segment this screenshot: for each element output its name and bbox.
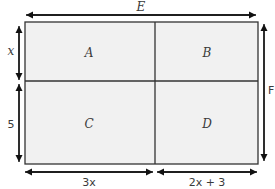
dimension-left-bottom: 5 — [8, 84, 20, 162]
region-a-label: A — [84, 46, 94, 60]
dimension-left-top: x — [8, 26, 19, 80]
dimension-bottom-right: 2x + 3 — [157, 172, 257, 189]
rectangle — [25, 22, 258, 164]
region-c-label: C — [84, 117, 93, 131]
dimension-right: F — [264, 24, 274, 161]
region-b-label: B — [202, 46, 212, 60]
region-d-label: D — [201, 117, 212, 131]
dimension-f-label: F — [268, 84, 274, 97]
dimension-x-label: x — [8, 44, 15, 58]
dimension-e-label: E — [136, 0, 146, 14]
dimension-5-label: 5 — [8, 118, 15, 131]
area-diagram: A B C D E F x 5 3x 2x + 3 — [0, 0, 275, 189]
dimension-bottom-left: 3x — [25, 172, 153, 189]
dimension-top: E — [26, 0, 256, 15]
dimension-3x-label: 3x — [82, 176, 96, 189]
dimension-2x-plus-3-label: 2x + 3 — [189, 176, 226, 189]
